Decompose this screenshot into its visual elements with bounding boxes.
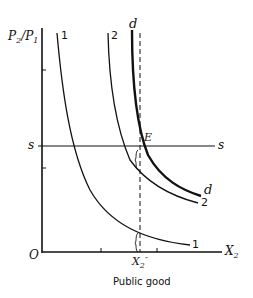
y-axis-label: P2/P1 (8, 30, 38, 45)
y-label-p2: P (8, 29, 16, 43)
x-label-sub: 2 (234, 251, 239, 260)
demand-curve-2 (108, 33, 198, 203)
equilibrium-label: E (144, 132, 152, 143)
curve-d-bottom-label: d (204, 183, 212, 196)
curve-1-top-label: 1 (61, 30, 68, 41)
caption: Public good (113, 277, 171, 287)
quantity-label: X2″ (132, 256, 148, 270)
supply-label-right: s (218, 139, 224, 151)
x-label-main: X (225, 244, 234, 258)
demand-curve-1 (57, 33, 190, 245)
curve-2-top-label: 2 (111, 30, 118, 41)
origin-label: O (29, 249, 39, 261)
supply-label-left: s (28, 139, 34, 151)
x-axis-label: X2 (225, 245, 239, 260)
brace-lower (135, 233, 138, 252)
quantity-label-sup: ″ (145, 255, 148, 264)
aggregate-demand-curve-d (132, 30, 201, 196)
curve-1-bottom-label: 1 (192, 239, 199, 250)
quantity-label-main: X (132, 255, 140, 268)
y-label-p1-sub: 1 (33, 36, 38, 45)
curve-2-bottom-label: 2 (201, 197, 208, 208)
curve-d-top-label: d (129, 17, 137, 30)
